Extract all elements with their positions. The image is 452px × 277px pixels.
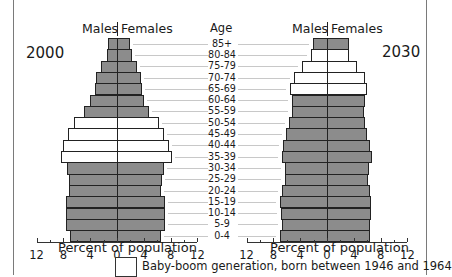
guide-line [147, 100, 208, 101]
guide-line [238, 89, 286, 90]
guide-line [238, 213, 277, 214]
guide-line [162, 123, 208, 124]
guide-line [144, 78, 208, 79]
age-axis-title: Age [210, 21, 232, 35]
legend-text-baby-boom: Baby-boom generation, born between 1946 … [142, 259, 452, 273]
guide-line [238, 179, 281, 180]
guide-line [175, 157, 208, 158]
males-header-2000: Males [82, 21, 118, 36]
guide-line [238, 168, 281, 169]
guide-line [168, 224, 208, 225]
guide-line [238, 66, 298, 67]
guide-line [168, 202, 208, 203]
females-header-2030: Females [331, 21, 383, 36]
guide-line [152, 111, 208, 112]
guide-line [238, 111, 288, 112]
legend-swatch-baby-boom [115, 257, 137, 277]
guide-line [238, 100, 288, 101]
guide-line [238, 44, 309, 45]
guide-line [133, 44, 208, 45]
center-axis-line [327, 38, 328, 243]
guide-line [238, 145, 279, 146]
x-axis-tick [50, 240, 51, 242]
guide-line [238, 202, 276, 203]
x-axis-tick [247, 238, 248, 242]
frame-right-border [426, 0, 427, 275]
guide-line [145, 89, 208, 90]
guide-line [167, 168, 208, 169]
guide-line [140, 66, 208, 67]
x-axis-title-2000: Percent of population [58, 240, 197, 255]
center-axis-line [117, 38, 118, 243]
males-header-2030: Males [292, 21, 328, 36]
year-label-2030: 2030 [382, 43, 420, 61]
x-axis-tick [260, 240, 261, 242]
frame-left-border [13, 0, 14, 275]
guide-line [165, 179, 208, 180]
guide-line [238, 224, 278, 225]
x-axis-tick [37, 238, 38, 242]
x-axis-tick [197, 238, 198, 242]
header-divider-2000 [117, 22, 118, 36]
guide-line [238, 236, 276, 237]
year-label-2000: 2000 [26, 44, 64, 62]
guide-line [238, 78, 290, 79]
guide-line [238, 134, 282, 135]
header-divider-2030 [327, 22, 328, 36]
guide-line [164, 191, 208, 192]
x-tick-label: 12 [25, 248, 49, 262]
guide-line [238, 55, 307, 56]
guide-line [168, 213, 208, 214]
guide-line [167, 134, 208, 135]
guide-line [238, 191, 278, 192]
guide-line [135, 55, 208, 56]
females-header-2000: Females [121, 21, 173, 36]
guide-line [164, 236, 208, 237]
guide-line [238, 123, 285, 124]
guide-line [238, 157, 278, 158]
guide-line [172, 145, 208, 146]
x-axis-title-2030: Percent of population [270, 240, 409, 255]
